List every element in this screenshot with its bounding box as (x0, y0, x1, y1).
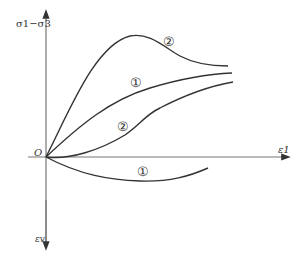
y-axis-bottom-label: εv (35, 234, 45, 244)
curve-lower-1-marker: ① (137, 164, 149, 179)
curve-upper-2-marker: ② (163, 34, 175, 49)
curve-upper-2 (46, 35, 228, 157)
curve-lower-2-marker: ② (117, 119, 129, 134)
x-axis-label: ε1 (278, 144, 290, 155)
origin-label: O (34, 147, 42, 158)
y-axis-top-label: σ1−σ3 (16, 18, 51, 29)
curve-lower-1 (46, 157, 208, 181)
stress-strain-diagram: σ1−σ3 εv ε1 O ② ① ② ① (0, 0, 305, 262)
curve-lower-2 (46, 82, 233, 158)
curve-upper-1-marker: ① (130, 75, 142, 90)
